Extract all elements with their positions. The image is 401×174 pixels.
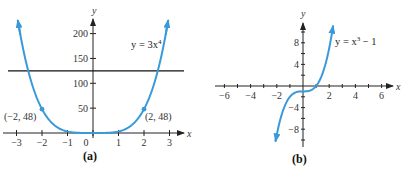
chart-a-equation-prefix: y = 3x [131,39,159,50]
chart-b-equation-suffix: − 1 [360,36,376,47]
chart-a-caption: (a) [83,149,97,163]
chart-b-y-tick-label: 8 [294,37,299,48]
chart-b-equation-label: y = x3 − 1 [335,35,377,47]
chart-a-y-tick-label: 200 [73,28,88,39]
chart-b-y-tick-label: −8 [288,124,299,135]
chart-a-x-tick-label: 2 [142,137,147,148]
chart-a-point-label: (−2, 48) [4,111,36,123]
chart-a-axes: −3−2−10123 50100150200 x y [3,5,192,148]
chart-a-y-tick-label: 150 [73,53,88,64]
chart-a-point-label: (2, 48) [145,111,172,123]
chart-b: −6−4−2246 84−4−8 x y y = x3 − 1 (b) [215,8,401,166]
chart-a-equation-exponent: 4 [158,38,162,46]
chart-b-x-tick-label: −2 [271,90,282,101]
chart-a: −3−2−10123 50100150200 x y (−2, 48)(2, 4… [3,5,192,163]
chart-a-x-tick-label: −3 [11,137,22,148]
chart-a-equation-label: y = 3x4 [131,38,162,50]
chart-b-curve-arrow-top [332,26,333,34]
chart-a-x-axis-label: x [186,128,192,139]
chart-b-x-tick-label: −6 [219,90,230,101]
chart-a-curve-arrow-right [166,20,169,35]
chart-a-x-tick-label: 0 [84,137,89,148]
chart-b-equation-prefix: y = x [335,36,357,47]
chart-a-y-tick-label: 50 [78,103,88,114]
chart-b-x-tick-label: −4 [245,90,256,101]
chart-a-x-tick-label: 1 [116,137,121,148]
chart-a-x-tick-label: −1 [62,137,73,148]
chart-a-x-tick-label: −2 [37,137,48,148]
chart-a-point [40,107,45,112]
chart-a-x-tick-label: 3 [167,137,172,148]
chart-b-curve-arrow-bottom [275,135,276,142]
chart-b-axes: −6−4−2246 84−4−8 x y [215,8,401,147]
chart-a-curve-arrow-left [18,20,21,35]
chart-a-y-tick-label: 100 [73,78,88,89]
chart-b-x-axis-label: x [395,81,401,92]
chart-b-x-ticks: −6−4−2246 [219,84,384,101]
chart-figure: −3−2−10123 50100150200 x y (−2, 48)(2, 4… [0,0,401,174]
chart-a-y-axis-label: y [91,5,97,16]
chart-b-y-tick-label: −4 [288,102,299,113]
chart-b-y-tick-label: 4 [294,59,299,70]
chart-b-x-tick-label: 6 [379,90,384,101]
chart-b-caption: (b) [292,152,307,166]
chart-b-y-axis-label: y [300,8,306,19]
chart-b-x-tick-label: 4 [353,90,358,101]
chart-b-x-tick-label: 2 [327,90,332,101]
